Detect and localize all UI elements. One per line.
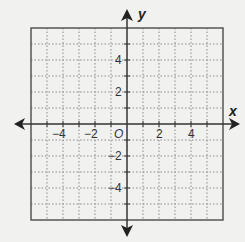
y-tick-label: 2 xyxy=(115,86,122,98)
y-tick-label: −4 xyxy=(108,182,122,194)
x-tick-label: −4 xyxy=(52,128,66,140)
y-tick-label: 4 xyxy=(115,54,122,66)
coordinate-plane xyxy=(0,0,245,242)
x-tick-label: 4 xyxy=(188,128,195,140)
x-tick-label: 2 xyxy=(156,128,163,140)
origin-label: O xyxy=(114,128,123,140)
y-axis-label: y xyxy=(138,7,146,21)
x-axis-label: x xyxy=(229,104,237,118)
x-tick-label: −2 xyxy=(84,128,98,140)
axes xyxy=(14,9,240,237)
y-tick-label: −2 xyxy=(108,150,122,162)
